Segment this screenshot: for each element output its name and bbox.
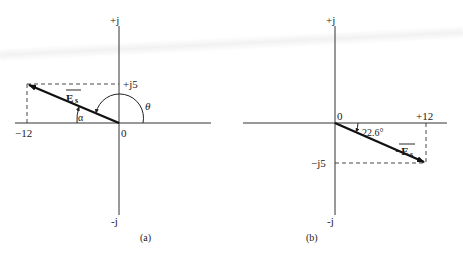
- angle-label: 22.6°: [362, 127, 384, 138]
- diagram-a: +j -j 0 −12 +j5 θ α E s (a): [15, 14, 211, 244]
- caption-a: (a): [140, 232, 151, 244]
- vector-label: −E s: [395, 144, 415, 159]
- alpha-label: α: [78, 112, 84, 123]
- real-tick-label: −12: [15, 127, 32, 139]
- origin-label: 0: [337, 110, 343, 122]
- angle-arc: [356, 123, 358, 132]
- svg-text:s: s: [410, 150, 413, 159]
- svg-text:E: E: [66, 92, 73, 104]
- imag-tick-label: −j5: [311, 157, 326, 169]
- svg-text:−E: −E: [395, 145, 409, 157]
- theta-label: θ: [145, 100, 151, 112]
- pos-imag-label: +j: [326, 14, 335, 26]
- imag-tick-label: +j5: [123, 78, 138, 90]
- pos-imag-label: +j: [110, 14, 119, 26]
- origin-label: 0: [121, 127, 127, 139]
- real-tick-label: +12: [416, 110, 433, 122]
- phasor-diagrams: +j -j 0 −12 +j5 θ α E s (a) +j -j 0 +12 …: [0, 0, 463, 257]
- caption-b: (b): [306, 232, 318, 244]
- theta-arc: [96, 94, 144, 123]
- neg-imag-label: -j: [111, 215, 118, 227]
- neg-imag-label: -j: [327, 215, 334, 227]
- svg-text:s: s: [75, 96, 78, 105]
- phasor-vector: [29, 85, 119, 123]
- diagram-b: +j -j 0 +12 −j5 22.6° −E s (b): [243, 14, 447, 244]
